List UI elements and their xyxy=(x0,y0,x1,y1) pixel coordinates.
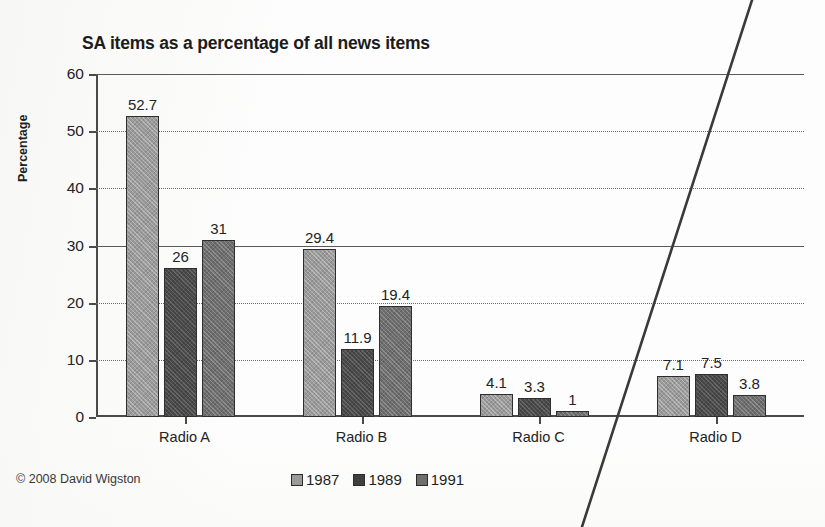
y-axis-tick-label: 10 xyxy=(67,351,84,369)
legend-swatch-icon xyxy=(291,474,303,486)
y-axis-tick-label: 0 xyxy=(75,408,84,426)
legend-label: 1989 xyxy=(368,471,401,488)
x-axis-category-label: Radio A xyxy=(159,429,210,445)
legend-item[interactable]: 1987 xyxy=(291,471,339,488)
y-axis-tick xyxy=(89,188,96,190)
bar-group: 4.13.31 xyxy=(480,74,589,417)
bar-group: 52.72631 xyxy=(126,74,235,417)
legend-label: 1987 xyxy=(306,471,339,488)
bar[interactable]: 7.1 xyxy=(657,376,690,417)
y-axis-tick xyxy=(89,131,96,133)
y-axis-tick xyxy=(89,74,96,76)
x-axis-category-label: Radio C xyxy=(512,429,564,445)
chart-legend: 198719891991 xyxy=(291,471,464,488)
bar-value-label: 7.1 xyxy=(663,356,684,373)
y-axis-tick-label: 60 xyxy=(67,65,84,83)
x-axis-category-label: Radio B xyxy=(336,429,388,445)
y-axis-tick-label: 40 xyxy=(67,179,84,197)
bar[interactable]: 29.4 xyxy=(303,249,336,417)
legend-swatch-icon xyxy=(353,474,365,486)
bar[interactable]: 1 xyxy=(556,411,589,417)
y-axis-tick-label: 20 xyxy=(67,294,84,312)
y-axis-tick xyxy=(89,303,96,305)
bar-group: 29.411.919.4 xyxy=(303,74,412,417)
bar-value-label: 3.8 xyxy=(739,375,760,392)
bar[interactable]: 52.7 xyxy=(126,116,159,417)
y-axis-tick xyxy=(89,360,96,362)
y-axis-tick xyxy=(89,246,96,248)
bar-value-label: 19.4 xyxy=(381,286,410,303)
bar[interactable]: 11.9 xyxy=(341,349,374,417)
x-axis-tick xyxy=(185,417,187,424)
bar[interactable]: 31 xyxy=(202,240,235,417)
x-axis-tick xyxy=(362,417,364,424)
bar-value-label: 26 xyxy=(172,248,189,265)
x-axis-tick xyxy=(716,417,718,424)
copyright-notice: © 2008 David Wigston xyxy=(16,472,141,486)
legend-label: 1991 xyxy=(431,471,464,488)
bar[interactable]: 7.5 xyxy=(695,374,728,417)
bar-value-label: 7.5 xyxy=(701,354,722,371)
y-axis-title: Percentage xyxy=(16,115,30,182)
bar-value-label: 31 xyxy=(210,220,227,237)
bar[interactable]: 26 xyxy=(164,268,197,417)
bar[interactable]: 3.3 xyxy=(518,398,551,417)
bar-value-label: 52.7 xyxy=(128,96,157,113)
x-axis-tick xyxy=(539,417,541,424)
bar-value-label: 1 xyxy=(568,391,576,408)
x-axis-category-label: Radio D xyxy=(689,429,741,445)
bar-value-label: 29.4 xyxy=(305,229,334,246)
bar-group: 7.17.53.8 xyxy=(657,74,766,417)
chart-title: SA items as a percentage of all news ite… xyxy=(82,33,430,54)
bar-value-label: 4.1 xyxy=(486,374,507,391)
legend-item[interactable]: 1989 xyxy=(353,471,401,488)
y-axis-tick-label: 50 xyxy=(67,122,84,140)
y-axis-tick xyxy=(89,417,96,419)
y-axis-tick-label: 30 xyxy=(67,237,84,255)
bar-value-label: 11.9 xyxy=(343,329,371,346)
plot-area: 010203040506052.7263129.411.919.44.13.31… xyxy=(96,74,804,417)
bar[interactable]: 19.4 xyxy=(379,306,412,417)
bar[interactable]: 3.8 xyxy=(733,395,766,417)
bar-value-label: 3.3 xyxy=(524,378,545,395)
legend-swatch-icon xyxy=(416,474,428,486)
bar[interactable]: 4.1 xyxy=(480,394,513,417)
chart-page: SA items as a percentage of all news ite… xyxy=(0,0,825,527)
legend-item[interactable]: 1991 xyxy=(416,471,464,488)
